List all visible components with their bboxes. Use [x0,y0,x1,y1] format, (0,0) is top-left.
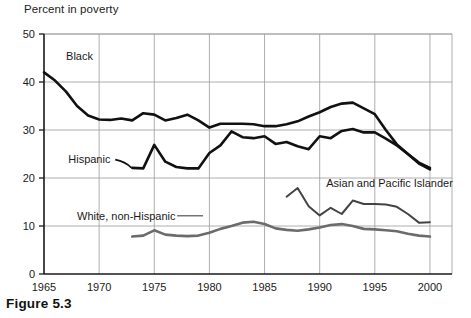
y-tick-label: 50 [23,28,35,40]
series-line-white-non-hispanic [132,222,430,237]
x-tick-label: 1985 [252,281,276,293]
x-tick-label: 1990 [307,281,331,293]
series-line-asian-and-pacific-islander [287,188,430,223]
y-tick-label: 10 [23,220,35,232]
series-label-asian-and-pacific-islander: Asian and Pacific Islander [326,177,453,189]
x-tick-label: 1970 [87,281,111,293]
series-label-hispanic: Hispanic [68,153,111,165]
poverty-line-chart: 0102030405019651970197519801985199019952… [0,0,471,318]
y-tick-label: 0 [29,268,35,280]
series-label-white-non-hispanic: White, non-Hispanic [77,210,176,222]
hispanic-label-leader [115,160,131,168]
figure-caption: Figure 5.3 [6,296,72,311]
x-tick-label: 1965 [32,281,56,293]
y-tick-label: 20 [23,172,35,184]
x-tick-label: 1975 [142,281,166,293]
x-tick-label: 1995 [363,281,387,293]
x-tick-label: 2000 [418,281,442,293]
y-tick-label: 30 [23,124,35,136]
series-line-hispanic [132,129,430,169]
series-label-black: Black [66,50,93,62]
y-tick-label: 40 [23,76,35,88]
figure-container: Percent in poverty 010203040501965197019… [0,0,471,318]
x-tick-label: 1980 [197,281,221,293]
